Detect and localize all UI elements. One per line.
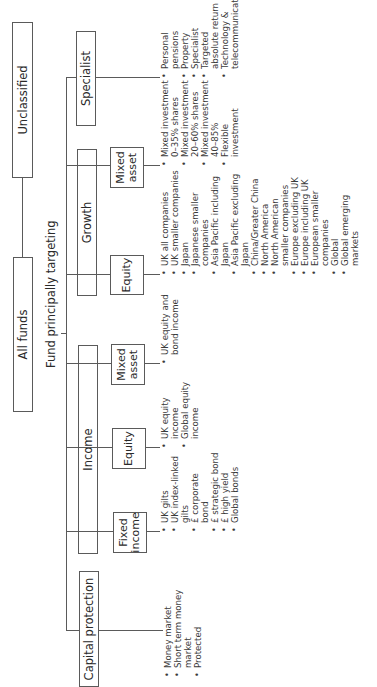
growth-equity-list: UK all companies UK smaller companies Ja… bbox=[160, 169, 360, 275]
list-item: Mixed investment 20–60% shares bbox=[180, 78, 200, 166]
income-fixed-income-list: UK gilts UK index-linked gilts £ corpora… bbox=[160, 452, 240, 532]
list-item: North American smaller companies bbox=[270, 169, 290, 275]
list-item: Flexible investment bbox=[220, 78, 240, 166]
all-funds-label: All funds bbox=[17, 310, 29, 360]
list-item: £ strategic bond bbox=[210, 452, 220, 532]
list-item: UK index-linked gilts bbox=[170, 452, 190, 532]
list-item: Asia Pacific including Japan bbox=[210, 169, 230, 275]
category-spine bbox=[66, 78, 67, 631]
list-item: UK smaller companies bbox=[170, 169, 180, 275]
specialist-list: Personal pensions Property Specialist Ta… bbox=[160, 2, 240, 78]
list-item: Protected bbox=[193, 587, 203, 677]
income-equity-list: UK equity income Global equity income bbox=[160, 368, 200, 448]
capital-protection-list: Money market Short term money market Pro… bbox=[163, 587, 203, 677]
list-item: Japan bbox=[180, 169, 190, 275]
list-item: UK equity and bond income bbox=[160, 294, 180, 364]
list-item: Technology & telecommunications bbox=[220, 2, 240, 78]
income-mixed-asset-list: UK equity and bond income bbox=[160, 294, 180, 364]
growth-equity-box: Equity bbox=[110, 255, 144, 295]
list-item: Europe including UK bbox=[300, 169, 310, 275]
list-item: Asia Pacific excluding Japan bbox=[230, 169, 250, 275]
list-item: Global emerging markets bbox=[340, 169, 360, 275]
list-item: Personal pensions bbox=[160, 2, 180, 78]
list-item: Global bonds bbox=[230, 452, 240, 532]
all-funds-box: All funds bbox=[13, 257, 33, 412]
unclassified-box: Unclassified bbox=[12, 22, 33, 178]
list-item: Money market bbox=[163, 587, 173, 677]
list-item: Global equity income bbox=[180, 368, 200, 448]
fund-targeting-caption: Fund principally targeting bbox=[44, 221, 58, 369]
list-item: Global bbox=[330, 169, 340, 275]
income-equity-box: Equity bbox=[112, 428, 146, 469]
list-item: UK all companies bbox=[160, 169, 170, 275]
list-item: UK gilts bbox=[160, 452, 170, 532]
list-item: Property bbox=[180, 2, 190, 78]
list-item: Mixed investment 0–35% shares bbox=[160, 78, 180, 166]
list-item: Specialist bbox=[190, 2, 200, 78]
list-item: Europe excluding UK bbox=[290, 169, 300, 275]
income-fixed-income-box: Fixed income bbox=[113, 512, 147, 553]
category-capital-protection: Capital protection bbox=[79, 571, 99, 687]
growth-mixed-asset-box: Mixed asset bbox=[110, 147, 144, 188]
list-item: £ high yield bbox=[220, 452, 230, 532]
list-item: Japanese smaller companies bbox=[190, 169, 210, 275]
list-item: China/Greater China bbox=[250, 169, 260, 275]
unclassified-label: Unclassified bbox=[17, 65, 29, 134]
category-specialist: Specialist bbox=[76, 31, 96, 126]
list-item: £ corporate bond bbox=[190, 452, 210, 532]
list-item: Mixed investment 40–85% bbox=[200, 78, 220, 166]
list-item: Short term money market bbox=[173, 587, 193, 677]
list-item: European smaller companies bbox=[310, 169, 330, 275]
income-mixed-asset-box: Mixed asset bbox=[111, 344, 145, 385]
list-item: UK equity income bbox=[160, 368, 180, 448]
growth-mixed-asset-list: Mixed investment 0–35% shares Mixed inve… bbox=[160, 78, 240, 166]
category-income: Income bbox=[78, 345, 98, 554]
root-link-line bbox=[22, 178, 23, 257]
list-item: Targeted absolute return bbox=[200, 2, 220, 78]
list-item: North America bbox=[260, 169, 270, 275]
